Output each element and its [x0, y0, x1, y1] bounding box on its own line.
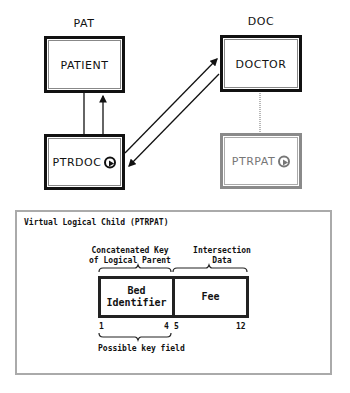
- pointer-arrow-icon: [104, 157, 116, 169]
- segment-ptrdoc-label-wrap: PTRDOC: [47, 156, 122, 169]
- segment-ptrpat-label-wrap: PTRPAT: [223, 155, 299, 168]
- segment-ptrdoc-label: PTRDOC: [53, 156, 102, 169]
- segment-doctor-label: DOCTOR: [223, 57, 299, 70]
- key-brace-icon: [99, 265, 171, 272]
- logical-pointer-arrow-to-doctor: [125, 59, 217, 153]
- position-12: 12: [236, 322, 246, 331]
- virtual-logical-child-panel: Virtual Logical Child (PTRPAT) Concatena…: [15, 210, 332, 375]
- position-5: 5: [174, 322, 179, 331]
- field-fee-label: Fee: [201, 291, 219, 303]
- logical-pointer-arrow-to-ptrdoc: [129, 74, 219, 166]
- segment-doctor[interactable]: DOCTOR: [220, 35, 302, 92]
- key-field-brace-icon: [99, 333, 171, 340]
- segment-ptrpat[interactable]: PTRPAT: [220, 133, 302, 189]
- field-bed-label-2: Identifier: [106, 297, 166, 308]
- record-layout: BedIdentifier Fee: [98, 276, 249, 318]
- segment-patient-label: PATIENT: [47, 58, 122, 71]
- position-4: 4: [164, 322, 169, 331]
- segment-ptrdoc[interactable]: PTRDOC: [44, 134, 125, 190]
- field-fee: Fee: [175, 279, 246, 315]
- segment-ptrpat-label: PTRPAT: [232, 155, 275, 168]
- possible-key-field-label: Possible key field: [98, 344, 185, 353]
- field-bed-label-1: Bed: [127, 285, 145, 296]
- field-bed-identifier: BedIdentifier: [101, 279, 175, 315]
- data-brace-icon: [173, 265, 247, 272]
- segment-patient[interactable]: PATIENT: [44, 36, 125, 93]
- position-1: 1: [99, 322, 104, 331]
- pointer-arrow-icon: [278, 156, 290, 168]
